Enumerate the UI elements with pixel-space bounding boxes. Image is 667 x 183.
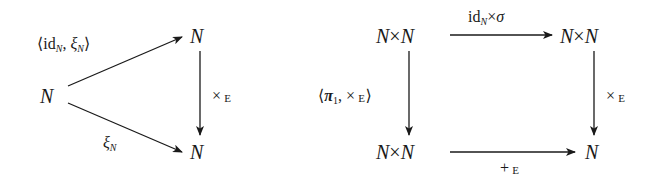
square-top-right-object: N×N [560,26,598,46]
morphism-plus-e: + E [500,160,519,176]
arrow-source-to-bottom [68,103,182,152]
triangle-source-object: N [40,86,53,106]
square-top-left-object: N×N [376,26,414,46]
morphism-id-times-sigma: idN×σ [468,9,504,27]
square-bottom-left-object: N×N [376,142,414,162]
triangle-top-object: N [190,26,203,46]
morphism-times-e-square: × E [606,88,625,104]
square-bottom-right-object: N [585,142,598,162]
morphism-times-e-triangle: × E [212,88,231,104]
morphism-xi: ξN [103,135,117,153]
morphism-pair-id-xi: ⟨idN, ξN⟩ [37,36,90,54]
triangle-bottom-object: N [190,142,203,162]
morphism-pair-pi-times-e: ⟨π1, × E⟩ [318,88,372,106]
